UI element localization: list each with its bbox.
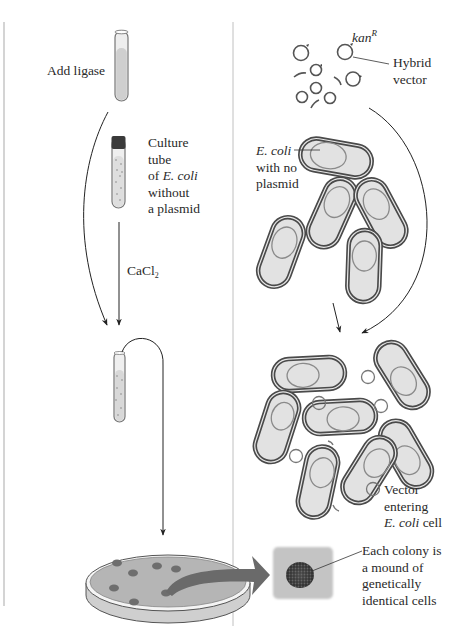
colony-line1: Each colony is — [362, 543, 441, 560]
pour-to-plate-arrow — [122, 338, 163, 535]
mixed-tube — [114, 352, 125, 423]
ecoli-line2: with no — [256, 160, 299, 177]
culture-line2: tube — [148, 152, 200, 169]
hybrid-vector-leader — [353, 57, 389, 64]
entering-line3: E. coli cell — [384, 515, 442, 532]
hybrid-line2: vector — [393, 72, 431, 89]
colony-description-label: Each colony is a mound of genetically id… — [362, 543, 441, 609]
hybrid-line1: Hybrid — [393, 55, 431, 72]
cacl2-subscript: 2 — [155, 271, 159, 280]
culture-line3: of E. coli — [148, 168, 200, 185]
colony-closeup — [273, 547, 333, 599]
plasmid-cluster — [294, 45, 361, 109]
culture-line1: Culture — [148, 135, 200, 152]
kanR-superscript: R — [372, 28, 378, 38]
hybrid-vector-label: Hybrid vector — [393, 55, 431, 88]
culture-line3-italic: E. coli — [163, 168, 198, 183]
cacl2-label: CaCl2 — [127, 263, 159, 282]
colony-line3: genetically — [362, 576, 441, 593]
colony-line2: a mound of — [362, 560, 441, 577]
entering-line2: entering — [384, 499, 442, 516]
ecoli-line3: plasmid — [256, 176, 299, 193]
culture-line4: without — [148, 185, 200, 202]
entering-line3-suffix: cell — [419, 515, 442, 530]
ecoli-no-plasmid-label: E. coli with no plasmid — [256, 143, 299, 193]
cacl2-main: CaCl — [127, 263, 155, 278]
culture-line3-prefix: of — [148, 168, 163, 183]
entering-line3-italic: E. coli — [384, 515, 419, 530]
culture-line5: a plasmid — [148, 201, 200, 218]
colony-line4: identical cells — [362, 593, 441, 610]
kanR-label: kanR — [352, 30, 377, 48]
cells-to-mix-arrow — [333, 303, 340, 332]
add-ligase-label: Add ligase — [47, 63, 105, 80]
ecoli-line1: E. coli — [256, 143, 299, 160]
culture-tube — [112, 136, 126, 208]
vector-entering-label: Vector entering E. coli cell — [384, 482, 442, 532]
culture-tube-label: Culture tube of E. coli without a plasmi… — [148, 135, 200, 218]
ligase-to-mix-arrow — [84, 112, 108, 325]
kanR-main: kan — [352, 30, 372, 45]
entering-line1: Vector — [384, 482, 442, 499]
ligase-tube — [115, 30, 128, 101]
